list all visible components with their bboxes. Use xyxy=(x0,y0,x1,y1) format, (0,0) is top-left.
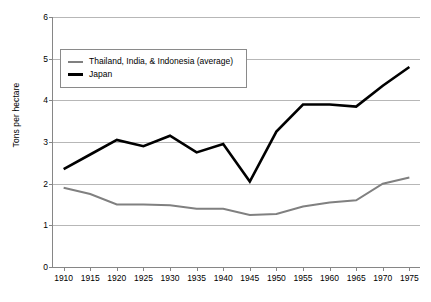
x-tick-label: 1910 xyxy=(54,274,73,283)
x-tick-label: 1965 xyxy=(347,274,366,283)
y-tick-label: 6 xyxy=(43,13,48,22)
legend-label: Thailand, India, & Indonesia (average) xyxy=(89,57,233,66)
x-tick-mark xyxy=(90,267,91,271)
x-tick-mark xyxy=(197,267,198,271)
x-tick-label: 1975 xyxy=(400,274,419,283)
chart-legend: Thailand, India, & Indonesia (average)Ja… xyxy=(60,49,247,88)
x-tick-mark xyxy=(170,267,171,271)
x-tick-label: 1955 xyxy=(294,274,313,283)
legend-item: Thailand, India, & Indonesia (average) xyxy=(68,55,239,68)
x-tick-mark xyxy=(276,267,277,271)
y-tick-label: 4 xyxy=(43,96,48,105)
x-tick-label: 1930 xyxy=(161,274,180,283)
y-tick-label: 1 xyxy=(43,221,48,230)
x-tick-mark xyxy=(356,267,357,271)
x-tick-label: 1970 xyxy=(373,274,392,283)
y-tick-label: 2 xyxy=(43,179,48,188)
x-tick-mark xyxy=(383,267,384,271)
x-tick-mark xyxy=(250,267,251,271)
x-tick-mark xyxy=(303,267,304,271)
x-tick-label: 1915 xyxy=(81,274,100,283)
x-tick-label: 1945 xyxy=(240,274,259,283)
y-tick-label: 0 xyxy=(43,263,48,272)
line-chart: Tons per hectare 0123456 191019151920192… xyxy=(0,0,431,302)
x-tick-label: 1935 xyxy=(187,274,206,283)
legend-item: Japan xyxy=(68,68,239,81)
x-tick-mark xyxy=(64,267,65,271)
x-tick-label: 1920 xyxy=(107,274,126,283)
series-line xyxy=(64,177,410,215)
y-tick-label: 5 xyxy=(43,54,48,63)
x-tick-mark xyxy=(330,267,331,271)
x-tick-mark xyxy=(409,267,410,271)
y-axis-title: Tons per hectare xyxy=(11,55,21,175)
x-tick-label: 1925 xyxy=(134,274,153,283)
x-tick-label: 1940 xyxy=(214,274,233,283)
x-tick-label: 1960 xyxy=(320,274,339,283)
x-tick-mark xyxy=(117,267,118,271)
x-tick-mark xyxy=(143,267,144,271)
legend-label: Japan xyxy=(89,70,112,79)
x-tick-label: 1950 xyxy=(267,274,286,283)
x-tick-mark xyxy=(223,267,224,271)
y-tick-mark xyxy=(49,267,53,268)
y-tick-label: 3 xyxy=(43,138,48,147)
legend-swatch xyxy=(68,73,83,76)
legend-swatch xyxy=(68,61,83,63)
